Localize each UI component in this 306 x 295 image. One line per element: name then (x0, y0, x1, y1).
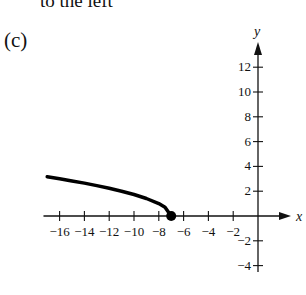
x-tick-label: −12 (99, 224, 119, 239)
y-tick-label: 6 (245, 134, 252, 149)
x-tick-label: −4 (201, 224, 215, 239)
y-axis-label: y (252, 24, 261, 39)
graph: xy−16−14−12−10−8−6−4−212108642−2−4 (0, 0, 306, 295)
x-tick-label: −6 (177, 224, 191, 239)
y-tick-label: 2 (245, 183, 252, 198)
curve (47, 177, 171, 216)
y-tick-label: −4 (237, 258, 251, 273)
y-tick-label: 4 (245, 158, 252, 173)
x-axis-label: x (295, 209, 303, 224)
y-tick-label: −2 (237, 233, 251, 248)
y-tick-label: 10 (238, 84, 251, 99)
x-tick-label: −8 (152, 224, 166, 239)
y-tick-label: 8 (245, 109, 252, 124)
y-axis-arrow-icon (254, 42, 262, 55)
x-tick-label: −10 (124, 224, 144, 239)
x-tick-label: −16 (49, 224, 70, 239)
x-tick-label: −14 (74, 224, 95, 239)
y-tick-label: 12 (238, 59, 251, 74)
x-axis-arrow-icon (279, 212, 291, 220)
endpoint-dot (166, 211, 176, 221)
